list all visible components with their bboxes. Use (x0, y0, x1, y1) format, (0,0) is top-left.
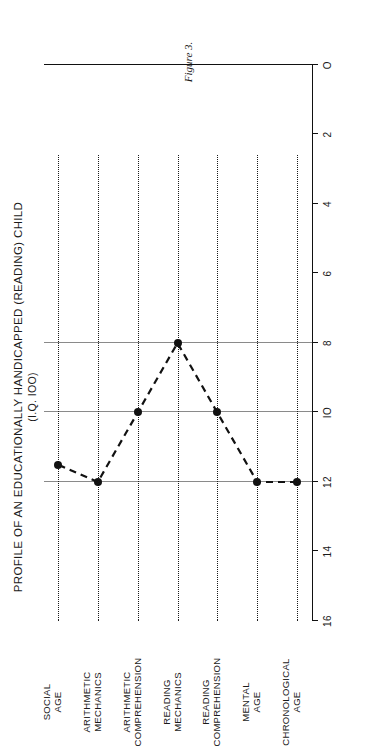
plot-right-border (44, 64, 313, 65)
category-label: MENTAL AGE (240, 627, 262, 750)
data-point-marker (174, 339, 182, 347)
axis-tick-label: 4 (322, 192, 333, 216)
category-guide-line (217, 155, 218, 621)
category-guide-line (257, 155, 258, 621)
axis-tick-label: 2 (322, 123, 333, 147)
category-guide-line (58, 155, 59, 621)
category-label: READING COMPREHENSION (200, 627, 222, 750)
axis-tick-label: 16 (322, 609, 333, 633)
category-label: ARITHMETIC MECHANICS (81, 627, 103, 750)
axis-tick (313, 203, 318, 204)
axis-tick (313, 620, 318, 621)
axis-tick (313, 64, 318, 65)
data-point-marker (54, 461, 62, 469)
profile-polyline (44, 64, 350, 677)
data-point-marker (253, 478, 261, 486)
axis-tick-label: 8 (322, 331, 333, 355)
category-guide-line (297, 155, 298, 621)
axis-tick-label: 12 (322, 470, 333, 494)
chart-subtitle: (I.Q. IOO) (26, 117, 38, 677)
data-point-marker (94, 478, 102, 486)
axis-tick (313, 273, 318, 274)
chart-title: PROFILE OF AN EDUCATIONALLY HANDICAPPED … (12, 117, 24, 677)
axis-tick-label: O (322, 53, 333, 77)
category-guide-line (98, 155, 99, 621)
category-label: CHRONOLOGICAL AGE (280, 627, 302, 750)
category-guide-line (138, 155, 139, 621)
data-point-marker (213, 409, 221, 417)
category-label: READING MECHANICS (161, 627, 183, 750)
gridline-10 (44, 412, 313, 413)
value-axis-line (312, 65, 313, 621)
axis-tick-label: 6 (322, 262, 333, 286)
axis-tick-label: IO (322, 401, 333, 425)
category-guide-line (178, 155, 179, 621)
gridline-12 (44, 481, 313, 482)
data-point-marker (134, 409, 142, 417)
axis-tick (313, 134, 318, 135)
data-point-marker (293, 478, 301, 486)
category-label: SOCIAL AGE (41, 627, 63, 750)
plot-area: 161412IO8642O CHRONOLOGICAL AGEMENTAL AG… (44, 64, 350, 677)
axis-tick (313, 551, 318, 552)
axis-tick (313, 412, 318, 413)
axis-tick (313, 481, 318, 482)
axis-tick (313, 342, 318, 343)
category-label: ARITHMETIC COMPREHENSION (121, 627, 143, 750)
axis-tick-label: 14 (322, 540, 333, 564)
